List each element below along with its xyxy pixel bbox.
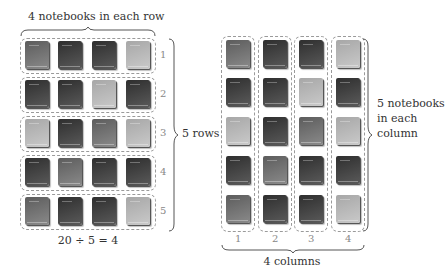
right-column-brace-icon: [362, 38, 374, 232]
row-number: 4: [160, 166, 166, 177]
notebook-dark: [336, 156, 360, 184]
row-number: 3: [160, 127, 166, 138]
notebook-dark: [263, 40, 287, 68]
notebook-light: [126, 197, 150, 225]
notebook-medium: [299, 117, 323, 145]
notebook-dark: [263, 117, 287, 145]
notebook-dark: [226, 156, 250, 184]
notebook-dark: [126, 158, 150, 186]
notebook-light: [336, 195, 360, 223]
column-number: 3: [308, 233, 314, 244]
notebook-dark: [126, 80, 150, 108]
notebook-dark: [92, 158, 116, 186]
equation: 20 ÷ 5 = 4: [28, 234, 148, 247]
notebook-medium: [226, 40, 250, 68]
notebook-dark: [58, 41, 82, 69]
notebook-dark: [263, 195, 287, 223]
notebook-dark: [58, 80, 82, 108]
notebook-dark: [25, 80, 49, 108]
notebook-dark: [92, 197, 116, 225]
notebook-medium: [58, 158, 82, 186]
top-brace-icon: [20, 27, 156, 37]
row-number: 2: [160, 88, 166, 99]
notebook-medium: [226, 195, 250, 223]
column-number: 4: [345, 233, 351, 244]
bottom-brace-icon: [221, 244, 365, 254]
notebook-dark: [263, 78, 287, 106]
column-label-line-3: column: [377, 126, 445, 141]
notebook-light: [126, 119, 150, 147]
column-label-line-2: in each: [377, 111, 445, 126]
rows-label: 5 rows: [182, 127, 219, 140]
notebook-light: [25, 119, 49, 147]
notebook-dark: [299, 195, 323, 223]
right-brace-icon: [168, 38, 180, 232]
notebook-dark: [58, 119, 82, 147]
notebook-medium: [263, 156, 287, 184]
notebook-dark: [336, 78, 360, 106]
notebook-dark: [226, 78, 250, 106]
notebook-medium: [25, 197, 49, 225]
notebook-dark: [299, 156, 323, 184]
notebook-light: [336, 117, 360, 145]
notebook-medium: [92, 119, 116, 147]
column-number: 1: [235, 233, 241, 244]
top-label: 4 notebooks in each row: [28, 10, 148, 23]
column-label-line-1: 5 notebooks: [377, 96, 445, 111]
notebook-medium: [25, 41, 49, 69]
column-count-label: 5 notebooks in each column: [377, 96, 445, 141]
notebook-dark: [299, 40, 323, 68]
columns-label: 4 columns: [232, 255, 352, 268]
notebook-dark: [25, 158, 49, 186]
row-number: 5: [160, 205, 166, 216]
column-number: 2: [272, 233, 278, 244]
notebook-light: [336, 40, 360, 68]
notebook-light: [92, 80, 116, 108]
notebook-light: [126, 41, 150, 69]
row-number: 1: [160, 49, 166, 60]
notebook-dark: [92, 41, 116, 69]
notebook-light: [226, 117, 250, 145]
notebook-dark: [58, 197, 82, 225]
notebook-light: [299, 78, 323, 106]
